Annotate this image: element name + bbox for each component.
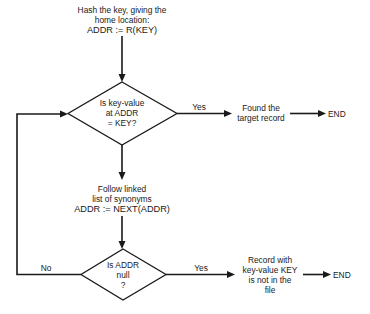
follow-line-1: Follow linked: [62, 184, 182, 194]
notfound-line-1: Record with: [237, 255, 303, 265]
notfound-line-3: is not in the: [237, 275, 303, 285]
hash-step-line-1: Hash the key, giving the: [62, 5, 182, 15]
hash-step-line-3: ADDR := R(KEY): [62, 25, 182, 35]
compare-decision-text: Is key-value at ADDR = KEY?: [87, 98, 157, 128]
arrowhead-icon: [119, 74, 126, 82]
follow-line-3: ADDR := NEXT(ADDR): [62, 204, 182, 214]
end-found-label: END: [328, 109, 352, 119]
end-not-found-label: END: [333, 270, 357, 280]
null-decision-text: Is ADDR null ?: [98, 260, 148, 290]
compare-line-3: = KEY?: [87, 118, 157, 128]
compare-line-2: at ADDR: [87, 108, 157, 118]
null-no-label: No: [36, 263, 56, 273]
null-yes-label: Yes: [186, 263, 216, 273]
arrowhead-icon: [323, 271, 331, 278]
notfound-line-4: file: [237, 285, 303, 295]
found-line-2: target record: [233, 113, 289, 123]
arrowhead-icon: [318, 110, 326, 117]
compare-yes-label: Yes: [184, 102, 214, 112]
not-found-result-text: Record with key-value KEY is not in the …: [237, 255, 303, 295]
arrowhead-icon: [227, 271, 235, 278]
hash-step-line-2: home location:: [62, 15, 182, 25]
arrowhead-icon: [60, 111, 68, 118]
arrowhead-icon: [119, 172, 126, 180]
notfound-line-2: key-value KEY: [237, 265, 303, 275]
arrowhead-icon: [224, 110, 232, 117]
found-result-text: Found the target record: [233, 103, 289, 123]
hash-step-text: Hash the key, giving the home location: …: [62, 5, 182, 35]
arrowhead-icon: [119, 241, 126, 249]
follow-line-2: list of synonyms: [62, 194, 182, 204]
null-line-1: Is ADDR: [98, 260, 148, 270]
null-line-3: ?: [98, 280, 148, 290]
compare-line-1: Is key-value: [87, 98, 157, 108]
follow-step-text: Follow linked list of synonyms ADDR := N…: [62, 184, 182, 214]
null-line-2: null: [98, 270, 148, 280]
found-line-1: Found the: [233, 103, 289, 113]
